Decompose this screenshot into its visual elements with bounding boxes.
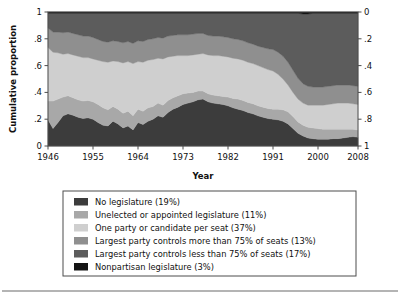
y-tick-label-left: 1 — [37, 7, 42, 17]
x-tick-label: 1964 — [127, 152, 149, 162]
legend-label: One party or candidate per seat (37%) — [95, 223, 256, 233]
legend-swatch — [74, 211, 88, 219]
y-tick-label-left: .8 — [34, 34, 42, 44]
y-tick-label-right: 0 — [364, 7, 369, 17]
y-tick-label-right: .2 — [364, 34, 372, 44]
figure-canvas: 0.2.4.6.81 0.2.4.6.81 194619551964197319… — [0, 0, 400, 298]
x-tick-label: 1955 — [82, 152, 104, 162]
y-tick-label-right: .6 — [364, 87, 372, 97]
y-tick-label-left: .2 — [34, 114, 42, 124]
y-tick-label-right: .8 — [364, 114, 372, 124]
legend: No legislature (19%)Unelected or appoint… — [63, 191, 356, 276]
x-tick-label: 2000 — [307, 152, 329, 162]
legend-swatch — [74, 198, 88, 206]
legend-swatch — [74, 250, 88, 258]
legend-item[interactable]: Nonpartisan legislature (3%) — [74, 262, 214, 272]
legend-label: Largest party controls less than 75% of … — [95, 249, 310, 259]
legend-swatch — [74, 237, 88, 245]
x-tick-label: 2008 — [347, 152, 369, 162]
x-tick-label: 1973 — [172, 152, 194, 162]
legend-swatch — [74, 224, 88, 232]
legend-label: Nonpartisan legislature (3%) — [95, 262, 214, 272]
legend-label: Largest party controls more than 75% of … — [95, 236, 316, 246]
y-tick-label-left: .4 — [34, 87, 42, 97]
x-tick-label: 1946 — [37, 152, 59, 162]
x-axis-title: Year — [191, 171, 214, 181]
legend-item[interactable]: Largest party controls more than 75% of … — [74, 236, 316, 246]
y-tick-label-right: 1 — [364, 141, 369, 151]
legend-item[interactable]: Unelected or appointed legislature (11%) — [74, 210, 266, 220]
legend-item[interactable]: Largest party controls less than 75% of … — [74, 249, 310, 259]
x-tick-label: 1991 — [262, 152, 284, 162]
legend-label: Unelected or appointed legislature (11%) — [95, 210, 266, 220]
legend-item[interactable]: One party or candidate per seat (37%) — [74, 223, 256, 233]
stacked-areas — [48, 12, 358, 146]
y-tick-label-left: .6 — [34, 61, 42, 71]
legend-label: No legislature (19%) — [95, 197, 180, 207]
y-tick-label-right: .4 — [364, 61, 372, 71]
y-axis-title: Cumulative proportion — [8, 25, 18, 133]
x-tick-label: 1982 — [217, 152, 239, 162]
legend-swatch — [74, 263, 88, 271]
plot-area — [48, 12, 358, 146]
y-tick-label-left: 0 — [37, 141, 42, 151]
